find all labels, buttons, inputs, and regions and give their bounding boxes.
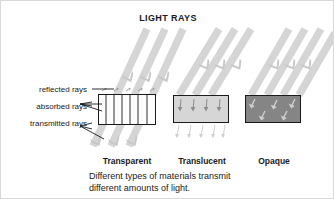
material-block-translucent [173,95,229,123]
material-label-opaque: Opaque [238,156,310,166]
material-block-opaque [245,95,301,123]
material-label-translucent: Translucent [164,156,240,166]
caption-line-1: Different types of materials transmit [89,171,230,181]
light-rays-diagram: LIGHT RAYS reflected rays absorbed rays … [0,0,334,199]
material-label-transparent: Transparent [89,156,165,166]
side-label-absorbed-rays: absorbed rays [36,102,87,111]
side-label-reflected-rays: reflected rays [39,85,87,94]
material-block-transparent [98,94,156,125]
caption-line-2: different amounts of light. [89,183,190,193]
diagram-title: LIGHT RAYS [1,13,334,23]
translucent-transmitted-rays [175,125,225,138]
side-label-transmitted-rays: transmitted rays [30,119,87,128]
